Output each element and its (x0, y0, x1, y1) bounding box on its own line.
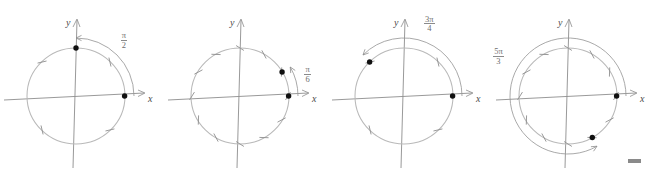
initial-point (450, 93, 455, 98)
angle-denominator: 2 (121, 40, 127, 50)
terminal-point (73, 45, 78, 50)
terminal-point (279, 69, 284, 74)
angle-numerator: 5π (493, 47, 504, 56)
unit-circle-figure: xy3π4 (328, 0, 492, 184)
x-axis-label: x (475, 93, 481, 104)
y-axis-label: y (557, 17, 563, 28)
angle-measure-label: π6 (304, 65, 310, 83)
figure-row: xyπ2xyπ6xy3π4xy5π3 (0, 0, 658, 184)
y-axis (237, 20, 241, 168)
unit-circle-figure: xy5π3 (492, 0, 656, 184)
x-axis-label: x (311, 93, 317, 104)
angle-denominator: 6 (304, 74, 310, 84)
scale-bar (628, 159, 641, 163)
initial-point (122, 93, 127, 98)
terminal-point (590, 135, 595, 140)
x-axis-label: x (639, 93, 645, 104)
angle-numerator: 3π (424, 15, 435, 24)
angle-sweep-arc (363, 38, 462, 96)
angle-measure-label: π2 (121, 31, 127, 49)
y-axis (73, 20, 77, 168)
angle-sweep-arc (290, 67, 298, 96)
angle-denominator: 3 (493, 56, 504, 66)
y-axis-label: y (393, 17, 399, 28)
angle-denominator: 4 (424, 23, 435, 33)
marked-points (73, 45, 127, 98)
angle-measure-label: 5π3 (493, 47, 504, 65)
y-axis-label: y (229, 17, 235, 28)
initial-point (614, 93, 619, 98)
angle-numerator: π (304, 65, 310, 74)
y-axis (565, 20, 569, 168)
y-axis (401, 20, 405, 168)
y-axis-label: y (65, 17, 71, 28)
marked-points (590, 93, 620, 140)
initial-point (286, 93, 291, 98)
angle-measure-label: 3π4 (424, 15, 435, 33)
x-axis-label: x (147, 93, 153, 104)
terminal-point (367, 59, 372, 64)
unit-circle-figure: xyπ6 (164, 0, 328, 184)
angle-numerator: π (121, 31, 127, 40)
unit-circle-figure: xyπ2 (0, 0, 164, 184)
